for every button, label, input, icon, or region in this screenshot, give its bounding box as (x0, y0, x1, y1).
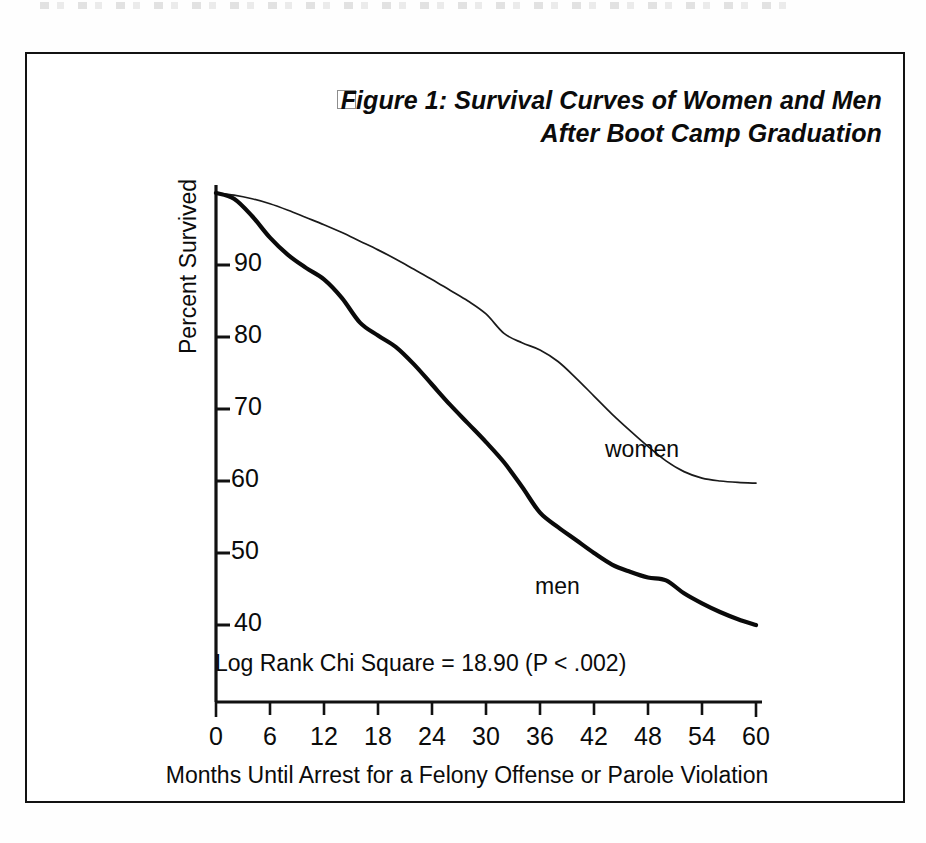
chart-plot-area: 90 80 70 60 50 40 Percent Survived 0 6 1… (27, 54, 907, 805)
x-tick-label-36: 36 (517, 722, 563, 751)
x-tick-label-0: 0 (193, 722, 239, 751)
scan-noise-artifact (40, 2, 800, 9)
chart-svg (27, 54, 907, 805)
y-tick-label-40: 40 (234, 608, 262, 637)
series-line-men (216, 193, 756, 625)
x-axis-title: Months Until Arrest for a Felony Offense… (27, 762, 907, 789)
x-tick-label-30: 30 (463, 722, 509, 751)
x-tick-label-24: 24 (409, 722, 455, 751)
y-tick-label-70: 70 (234, 392, 262, 421)
y-tick-marks (216, 265, 230, 625)
x-tick-label-18: 18 (355, 722, 401, 751)
series-label-women: women (605, 436, 679, 463)
y-tick-label-80: 80 (234, 320, 262, 349)
y-axis-title: Percent Survived (175, 179, 202, 354)
figure-frame: Figure 1: Survival Curves of Women and M… (25, 52, 905, 803)
x-tick-label-12: 12 (301, 722, 347, 751)
log-rank-statistic-note: Log Rank Chi Square = 18.90 (P < .002) (215, 650, 626, 677)
y-tick-label-90: 90 (234, 248, 262, 277)
series-label-men: men (535, 573, 580, 600)
x-tick-label-54: 54 (679, 722, 725, 751)
x-tick-label-48: 48 (625, 722, 671, 751)
y-tick-label-50: 50 (231, 536, 259, 565)
x-tick-label-60: 60 (733, 722, 779, 751)
x-tick-label-42: 42 (571, 722, 617, 751)
scanned-page: Figure 1: Survival Curves of Women and M… (0, 0, 926, 843)
y-tick-label-60: 60 (231, 464, 259, 493)
x-tick-marks (216, 702, 756, 717)
x-tick-label-6: 6 (247, 722, 293, 751)
